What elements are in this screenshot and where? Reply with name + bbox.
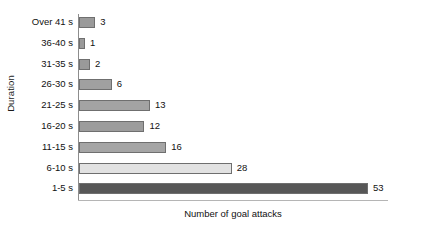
bar-row: 26-30 s6 (78, 76, 422, 95)
bar-row: 1-5 s53 (78, 180, 422, 199)
category-label: 26-30 s (41, 78, 73, 89)
bar-value-label: 53 (373, 182, 384, 193)
bar-value-label: 2 (95, 58, 100, 69)
bar-value-label: 16 (171, 141, 182, 152)
bar-row: 36-40 s1 (78, 35, 422, 54)
bar-value-label: 3 (100, 16, 105, 27)
bar-row: 21-25 s13 (78, 97, 422, 116)
bar-row: 6-10 s28 (78, 160, 422, 179)
plot-area: Over 41 s336-40 s131-35 s226-30 s621-25 … (78, 14, 422, 201)
bar (79, 121, 144, 132)
x-axis-title: Number of goal attacks (78, 208, 388, 219)
category-label: 11-15 s (42, 141, 73, 152)
bar (79, 38, 85, 49)
bar (79, 17, 95, 28)
category-label: 31-35 s (41, 58, 73, 69)
bar (79, 183, 368, 194)
bar-row: 31-35 s2 (78, 56, 422, 75)
bar (79, 100, 150, 111)
bar (79, 79, 112, 90)
category-label: 21-25 s (41, 99, 73, 110)
bar-value-label: 1 (90, 37, 95, 48)
category-label: Over 41 s (32, 16, 73, 27)
bar (79, 142, 166, 153)
bar-row: 16-20 s12 (78, 118, 422, 137)
bar-row: 11-15 s16 (78, 139, 422, 158)
category-label: 16-20 s (41, 120, 73, 131)
category-label: 1-5 s (52, 182, 73, 193)
bar-chart: Duration Over 41 s336-40 s131-35 s226-30… (0, 0, 422, 228)
bar (79, 163, 232, 174)
bar-value-label: 28 (237, 162, 248, 173)
category-label: 6-10 s (47, 162, 73, 173)
bar-value-label: 12 (149, 120, 160, 131)
y-axis-title: Duration (5, 64, 16, 124)
bar (79, 59, 90, 70)
bar-value-label: 6 (117, 78, 122, 89)
category-label: 36-40 s (41, 37, 73, 48)
bar-row: Over 41 s3 (78, 14, 422, 33)
bar-value-label: 13 (155, 99, 166, 110)
